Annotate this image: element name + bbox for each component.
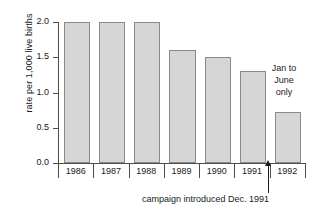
bar-chart: rate per 1,000 live births 0.00.51.01.52… [0,0,312,214]
bar-1988 [134,22,160,163]
bar-1992 [275,112,301,163]
bar-1987 [99,22,125,163]
x-label-1989: 1989 [164,166,199,176]
annotation-line-3: only [258,86,310,98]
annotation-jan-to-june-only: Jan to June only [258,62,310,98]
x-label-1987: 1987 [93,166,128,176]
bar-1990 [205,57,231,163]
x-label-separator [270,164,271,178]
x-label-1992: 1992 [270,166,305,176]
x-label-1991: 1991 [234,166,269,176]
y-axis-title: rate per 1,000 live births [24,0,34,128]
x-label-separator [93,164,94,178]
bar-1986 [64,22,90,163]
x-label-1990: 1990 [199,166,234,176]
campaign-arrow-stem-icon [268,165,269,193]
y-tick-1.0: 1.0 [53,93,58,94]
y-tick-label: 0.5 [36,122,49,132]
x-label-separator [199,164,200,178]
y-tick-label: 2.0 [36,16,49,26]
y-tick-0.5: 0.5 [53,128,58,129]
x-label-separator [164,164,165,178]
x-label-separator [58,164,59,178]
x-label-separator [234,164,235,178]
annotation-campaign-introduced: campaign introduced Dec. 1991 [142,194,269,204]
y-tick-label: 1.5 [36,51,49,61]
x-label-1988: 1988 [129,166,164,176]
y-tick-1.5: 1.5 [53,57,58,58]
y-tick-label: 1.0 [36,87,49,97]
annotation-line-2: June [258,74,310,86]
bar-1989 [169,50,195,163]
x-label-1986: 1986 [58,166,93,176]
y-tick-2.0: 2.0 [53,22,58,23]
x-label-separator [129,164,130,178]
annotation-line-1: Jan to [258,62,310,74]
y-tick-label: 0.0 [36,157,49,167]
x-label-separator [305,164,306,178]
